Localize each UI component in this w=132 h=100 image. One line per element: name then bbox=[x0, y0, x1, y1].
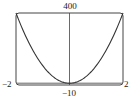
plot-area bbox=[0, 0, 132, 100]
x-min-label: −2 bbox=[2, 80, 12, 89]
y-max-label: 400 bbox=[59, 2, 81, 11]
y-min-label: −10 bbox=[58, 89, 80, 98]
x-max-label: 2 bbox=[124, 80, 129, 89]
